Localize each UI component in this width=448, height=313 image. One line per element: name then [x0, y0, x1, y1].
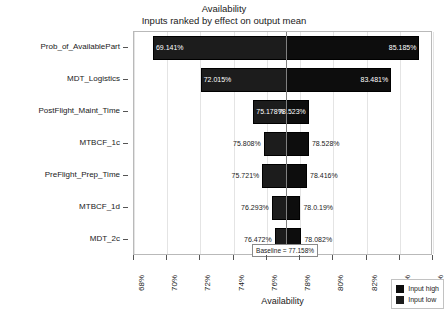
x-axis-tick-label: 68%	[137, 275, 146, 291]
x-axis-tick-label: 82%	[370, 275, 379, 291]
bar-row[interactable]: 76.293%78.0.19%	[134, 192, 431, 224]
y-axis-tick-label: MDT_2c	[90, 223, 120, 255]
x-axis-tick-label: 72%	[203, 275, 212, 291]
x-axis-tick-label: 74%	[237, 275, 246, 291]
y-axis-tick	[123, 111, 128, 112]
bar-segment-input-high	[286, 132, 309, 156]
y-axis-tick	[123, 47, 128, 48]
bar-value-label-high: 78.523%	[278, 107, 306, 117]
bar-row[interactable]: 72.015%83.481%	[134, 64, 431, 96]
legend-label: Input low	[408, 295, 436, 304]
bar-row[interactable]: 75.808%78.528%	[134, 128, 431, 160]
bar-value-label-high: 78.416%	[310, 171, 338, 181]
y-axis-tick	[123, 175, 128, 176]
bar-value-label-low: 75.808%	[233, 139, 261, 149]
x-axis-tick-label: 70%	[170, 275, 179, 291]
tornado-bar[interactable]	[262, 164, 307, 188]
y-axis-tick	[123, 143, 128, 144]
x-axis-tick	[199, 255, 200, 260]
x-axis-tick	[266, 255, 267, 260]
bar-value-label-high: 85.185%	[389, 43, 417, 53]
x-axis-tick-label: 78%	[303, 275, 312, 291]
page-title: Availability	[0, 3, 448, 15]
bar-segment-input-low	[262, 164, 286, 188]
x-axis-tick	[133, 255, 134, 260]
bar-value-label-high: 83.481%	[361, 75, 389, 85]
bar-value-label-high: 78.528%	[312, 139, 340, 149]
x-axis-tick	[233, 255, 234, 260]
legend-item[interactable]: Input high	[396, 283, 439, 294]
y-axis-tick-label: MTBCF_1c	[80, 127, 120, 159]
plot-area: 69.141%85.185%72.015%83.481%75.178%78.52…	[133, 31, 432, 255]
y-axis-tick	[123, 239, 128, 240]
bar-segment-input-low	[264, 132, 286, 156]
bar-value-label-low: 76.293%	[241, 203, 269, 213]
baseline-line	[286, 32, 287, 254]
bar-row[interactable]: 75.178%78.523%	[134, 96, 431, 128]
y-axis-tick-label: PreFlight_Prep_Time	[45, 159, 120, 191]
x-axis-tick-labels: 68%70%72%74%76%78%80%82%84%86%	[133, 261, 432, 293]
y-axis-tick	[123, 79, 128, 80]
x-axis-tick	[399, 255, 400, 260]
x-axis-tick	[432, 255, 433, 260]
x-axis-tick-label: 76%	[270, 275, 279, 291]
x-axis-tick	[332, 255, 333, 260]
y-axis-tick	[123, 207, 128, 208]
y-axis-tick-label: PostFlight_Maint_Time	[38, 95, 120, 127]
legend-item[interactable]: Input low	[396, 294, 439, 305]
bar-segment-input-high	[286, 164, 307, 188]
bar-segment-input-high	[286, 196, 300, 220]
y-axis: Prob_of_AvailablePartMDT_LogisticsPostFl…	[0, 31, 128, 255]
chart-subtitle: Inputs ranked by effect on output mean	[0, 15, 448, 27]
bar-row[interactable]: 75.721%78.416%	[134, 160, 431, 192]
x-axis-tick	[299, 255, 300, 260]
bar-value-label-low: 75.721%	[232, 171, 260, 181]
y-axis-tick-label: MDT_Logistics	[67, 63, 120, 95]
x-axis-label: Availability	[133, 296, 432, 306]
legend-swatch-icon	[396, 296, 404, 304]
bar-value-label-low: 72.015%	[204, 75, 232, 85]
x-axis-tick	[366, 255, 367, 260]
y-axis-tick-label: MTBCF_1d	[79, 191, 120, 223]
bar-row[interactable]: 69.141%85.185%	[134, 32, 431, 64]
legend-swatch-icon	[396, 285, 404, 293]
chart-title-block: Availability Inputs ranked by effect on …	[0, 3, 448, 27]
y-axis-tick-label: Prob_of_AvailablePart	[41, 31, 120, 63]
bar-value-label-high: 78.0.19%	[303, 203, 333, 213]
x-axis-tick	[166, 255, 167, 260]
bar-value-label-low: 69.141%	[156, 43, 184, 53]
legend: Input highInput low	[391, 279, 444, 309]
bar-segment-input-low	[272, 196, 286, 220]
x-axis-tick-label: 80%	[336, 275, 345, 291]
gridline	[433, 32, 434, 254]
legend-label: Input high	[408, 284, 439, 293]
